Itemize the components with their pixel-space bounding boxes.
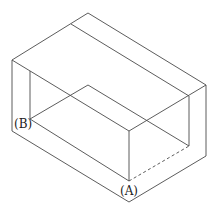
hidden-edge [129, 146, 189, 181]
box-edge [12, 13, 88, 60]
point-b-label: (B) [14, 117, 32, 131]
box-edge [12, 131, 129, 202]
hidden-edges-dashed [129, 146, 189, 181]
box-edge [129, 156, 206, 202]
isometric-box-diagram: (A) (B) [0, 0, 217, 211]
box-edge [129, 85, 206, 131]
box-edge [30, 85, 88, 119]
point-a-label: (A) [120, 184, 138, 198]
box-edge [88, 13, 206, 85]
solid-edges [12, 13, 206, 202]
